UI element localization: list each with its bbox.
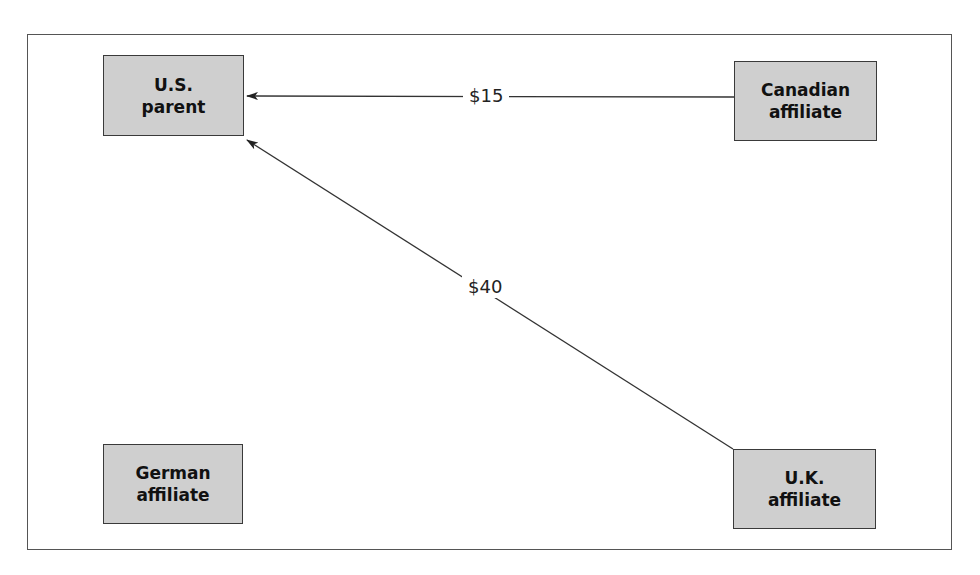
node-us-parent-line2: parent bbox=[142, 96, 206, 118]
node-canadian-affiliate[interactable]: Canadian affiliate bbox=[734, 61, 877, 141]
node-german-affiliate-line1: German bbox=[135, 462, 210, 484]
node-uk-affiliate-line2: affiliate bbox=[768, 489, 841, 511]
flow-label-uk-to-us: $40 bbox=[462, 276, 508, 298]
node-uk-affiliate-line1: U.K. bbox=[785, 467, 825, 489]
node-canadian-affiliate-line1: Canadian bbox=[761, 79, 850, 101]
node-canadian-affiliate-line2: affiliate bbox=[769, 101, 842, 123]
flow-label-canada-to-us: $15 bbox=[463, 85, 509, 107]
node-german-affiliate[interactable]: German affiliate bbox=[103, 444, 243, 524]
node-us-parent-line1: U.S. bbox=[154, 74, 193, 96]
node-uk-affiliate[interactable]: U.K. affiliate bbox=[733, 449, 876, 529]
node-us-parent[interactable]: U.S. parent bbox=[103, 55, 244, 136]
node-german-affiliate-line2: affiliate bbox=[136, 484, 209, 506]
